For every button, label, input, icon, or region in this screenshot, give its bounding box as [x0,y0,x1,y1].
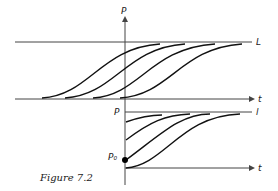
top-limit-label: L [256,37,261,47]
initial-point [122,157,128,163]
bottom-y-label: P [114,107,120,117]
caption: Figure 7.2 [39,172,93,183]
bottom-x-label: t [258,163,262,173]
bottom-curves [126,114,240,168]
t-arrow-icon [249,96,255,102]
bottom-limit-label: l [256,107,259,117]
top-x-label: t [258,94,262,104]
t-arrow-icon [249,165,255,171]
initial-label: P₀ [108,152,117,162]
figure: P L t P l t P₀ Figure 7.2 [0,0,278,191]
top-curves [42,44,242,98]
top-y-label: P [121,6,127,16]
p-arrow-icon [122,16,128,22]
